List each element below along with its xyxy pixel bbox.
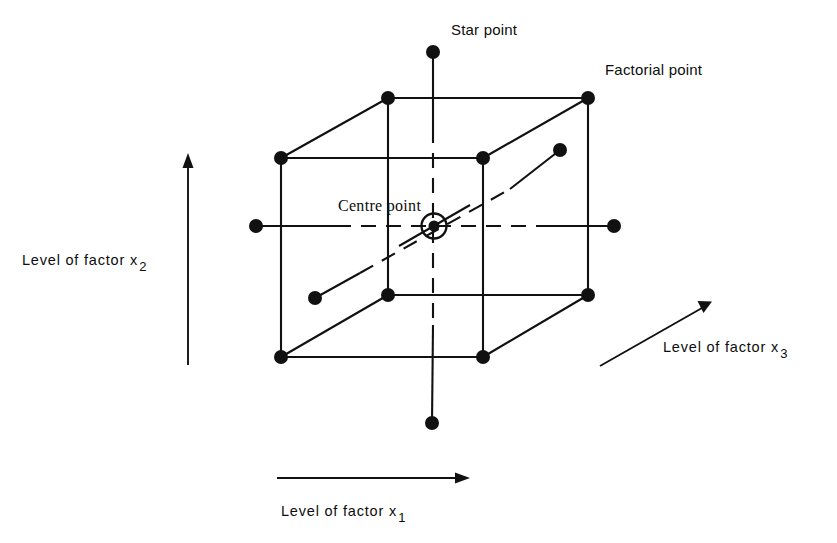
star-axis-vertical-lower-solid bbox=[432, 325, 433, 423]
factorial-point-front-bottom-left bbox=[274, 350, 288, 364]
factorial-point-front-top-left bbox=[274, 151, 288, 165]
axis-label-x1-var: x bbox=[389, 503, 396, 519]
factorial-point-label: Factorial point bbox=[605, 62, 702, 77]
axis-arrow-x2-head bbox=[183, 153, 194, 168]
axis-arrows bbox=[183, 153, 713, 484]
factorial-point-front-bottom-right bbox=[476, 350, 490, 364]
axis-arrow-x3-head bbox=[698, 301, 713, 313]
factorial-point-front-top-right bbox=[476, 151, 490, 165]
central-composite-design-figure bbox=[0, 0, 837, 543]
axis-arrow-x1-head bbox=[455, 473, 470, 484]
factorial-point-back-top-right bbox=[581, 91, 595, 105]
axis-label-x3-subscript: 3 bbox=[780, 346, 787, 361]
factorial-point-back-bottom-left bbox=[381, 288, 395, 302]
centre-point-dot bbox=[429, 221, 440, 232]
star-point-label-text: Star point bbox=[451, 21, 517, 38]
factorial-point-back-top-left bbox=[381, 91, 395, 105]
factorial-point-label-text: Factorial point bbox=[605, 61, 702, 78]
axis-arrow-x3-shaft bbox=[600, 308, 702, 366]
axis-label-x1-prefix: Level of factor bbox=[281, 503, 384, 519]
star-point-label: Star point bbox=[451, 22, 517, 37]
factorial-point-back-bottom-right bbox=[581, 288, 595, 302]
axis-label-x3-var: x bbox=[771, 339, 778, 355]
axis-label-x2-subscript: 2 bbox=[139, 259, 146, 274]
axis-label-x2-prefix: Level of factor bbox=[22, 252, 125, 268]
cube-edge-connect-top-left bbox=[281, 98, 388, 158]
axis-label-x1-subscript: 1 bbox=[398, 510, 405, 525]
star-point-top bbox=[426, 45, 440, 59]
axis-label-x3: Level of factor x3 bbox=[663, 340, 785, 355]
star-point-depth-back bbox=[553, 143, 567, 157]
cube-edge-connect-top-right bbox=[483, 98, 588, 158]
axis-label-x3-prefix: Level of factor bbox=[663, 339, 766, 355]
centre-point-label: Centre point bbox=[338, 198, 421, 214]
axis-label-x2: Level of factor x2 bbox=[22, 253, 144, 268]
star-point-right bbox=[607, 219, 621, 233]
star-axis-depth-front-solid bbox=[315, 273, 360, 298]
star-axis-depth-back-solid bbox=[510, 150, 560, 189]
star-point-bottom bbox=[425, 416, 439, 430]
cube-edge-connect-bottom-left bbox=[281, 295, 388, 357]
cube-edge-connect-bottom-right bbox=[483, 295, 588, 357]
axis-label-x1: Level of factor x1 bbox=[281, 504, 403, 519]
axis-label-x2-var: x bbox=[130, 252, 137, 268]
star-point-depth-front bbox=[308, 291, 322, 305]
centre-point-label-text: Centre point bbox=[338, 197, 421, 214]
star-point-left bbox=[249, 219, 263, 233]
